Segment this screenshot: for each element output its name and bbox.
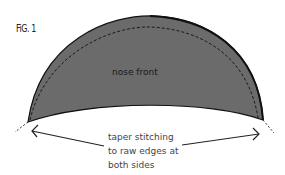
caption: taper stitching to raw edges at both sid… bbox=[108, 130, 178, 172]
caption-line-2: to raw edges at bbox=[108, 144, 178, 158]
piece-label: nose front bbox=[112, 67, 158, 77]
figure-label: FiG. 1 bbox=[16, 22, 36, 35]
caption-line-1: taper stitching bbox=[108, 130, 178, 144]
stitch-extension-left bbox=[15, 122, 28, 132]
arrow-right-icon bbox=[182, 128, 259, 145]
caption-line-3: both sides bbox=[108, 158, 178, 172]
stitch-extension-right bbox=[263, 120, 274, 133]
arrow-left-icon bbox=[32, 125, 104, 146]
